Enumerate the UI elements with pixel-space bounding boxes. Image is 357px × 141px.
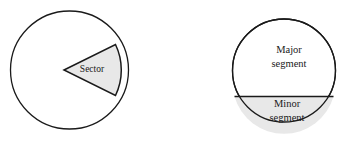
- sector-circle-group: Sector: [11, 11, 129, 129]
- circle-parts-diagram: Sector Major segment Minor segment: [0, 0, 357, 141]
- sector-label: Sector: [80, 64, 105, 74]
- minor-segment-label-line1: Minor: [274, 98, 301, 109]
- major-segment-label-line1: Major: [276, 44, 302, 55]
- minor-segment-label-line2: segment: [270, 112, 305, 123]
- segment-circle-group: Major segment Minor segment: [233, 19, 336, 134]
- diagram-canvas: Sector Major segment Minor segment: [0, 0, 357, 141]
- major-segment-label-line2: segment: [272, 58, 307, 69]
